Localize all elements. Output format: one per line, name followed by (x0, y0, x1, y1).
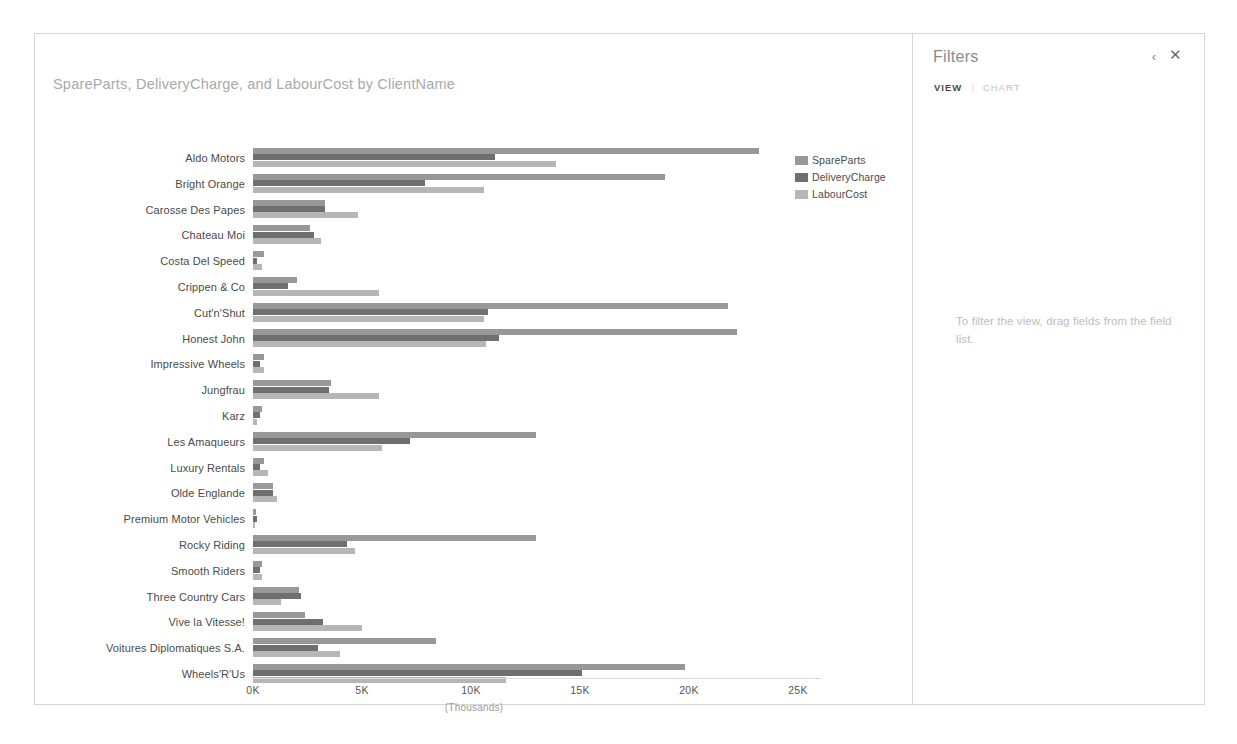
bar-spareparts[interactable] (253, 664, 685, 670)
category-label: Chateau Moi (75, 229, 245, 241)
bar-deliverycharge[interactable] (253, 619, 323, 625)
bar-deliverycharge[interactable] (253, 206, 325, 212)
bar-deliverycharge[interactable] (253, 670, 582, 676)
category-label: Les Amaqueurs (75, 436, 245, 448)
x-tick-label: 10K (451, 684, 491, 696)
chart-legend[interactable]: SparePartsDeliveryChargeLabourCost (795, 152, 913, 203)
bar-chart-plot-area[interactable]: Aldo MotorsBright OrangeCarosse Des Pape… (35, 34, 913, 704)
bar-deliverycharge[interactable] (253, 645, 318, 651)
bar-labourcost[interactable] (253, 496, 277, 502)
bar-spareparts[interactable] (253, 148, 759, 154)
bar-spareparts[interactable] (253, 483, 273, 489)
legend-swatch-icon (795, 156, 808, 165)
category-label: Aldo Motors (75, 152, 245, 164)
bar-spareparts[interactable] (253, 458, 264, 464)
legend-label: SpareParts (812, 154, 866, 166)
bar-labourcost[interactable] (253, 187, 484, 193)
bar-spareparts[interactable] (253, 303, 728, 309)
category-label: Bright Orange (75, 178, 245, 190)
bar-labourcost[interactable] (253, 548, 355, 554)
bar-labourcost[interactable] (253, 470, 268, 476)
bar-labourcost[interactable] (253, 445, 382, 451)
bar-deliverycharge[interactable] (253, 335, 499, 341)
legend-item[interactable]: DeliveryCharge (795, 169, 913, 185)
close-icon[interactable]: ✕ (1169, 47, 1182, 62)
category-label: Smooth Riders (75, 565, 245, 577)
chart-panel[interactable]: SpareParts, DeliveryCharge, and LabourCo… (35, 34, 913, 704)
bar-spareparts[interactable] (253, 612, 305, 618)
bar-deliverycharge[interactable] (253, 567, 260, 573)
bar-spareparts[interactable] (253, 225, 310, 231)
bar-spareparts[interactable] (253, 329, 737, 335)
bar-labourcost[interactable] (253, 238, 321, 244)
bar-spareparts[interactable] (253, 380, 331, 386)
bar-labourcost[interactable] (253, 599, 281, 605)
category-label: Rocky Riding (75, 539, 245, 551)
filters-tab-bar[interactable]: VIEW | CHART (934, 82, 1020, 93)
category-label: Karz (75, 410, 245, 422)
legend-label: LabourCost (812, 188, 867, 200)
bar-deliverycharge[interactable] (253, 361, 260, 367)
bar-deliverycharge[interactable] (253, 283, 288, 289)
bar-deliverycharge[interactable] (253, 154, 495, 160)
bar-spareparts[interactable] (253, 638, 436, 644)
bar-spareparts[interactable] (253, 432, 536, 438)
filters-title: Filters (933, 48, 979, 66)
bar-spareparts[interactable] (253, 587, 299, 593)
legend-item[interactable]: SpareParts (795, 152, 913, 168)
x-axis-caption: (Thousands) (35, 702, 913, 713)
bar-deliverycharge[interactable] (253, 593, 301, 599)
x-tick-label: 0K (233, 684, 273, 696)
bar-deliverycharge[interactable] (253, 180, 425, 186)
category-label: Wheels'R'Us (75, 668, 245, 680)
bar-spareparts[interactable] (253, 561, 262, 567)
bar-spareparts[interactable] (253, 174, 665, 180)
bar-labourcost[interactable] (253, 393, 379, 399)
bar-labourcost[interactable] (253, 290, 379, 296)
bar-labourcost[interactable] (253, 522, 255, 528)
bar-spareparts[interactable] (253, 406, 262, 412)
bar-deliverycharge[interactable] (253, 232, 314, 238)
bar-spareparts[interactable] (253, 354, 264, 360)
category-label: Impressive Wheels (75, 358, 245, 370)
x-tick-label: 20K (669, 684, 709, 696)
category-label: Cut'n'Shut (75, 307, 245, 319)
bar-labourcost[interactable] (253, 367, 264, 373)
chevron-left-icon[interactable]: ‹ (1152, 50, 1156, 63)
bar-labourcost[interactable] (253, 651, 340, 657)
bar-labourcost[interactable] (253, 341, 486, 347)
legend-swatch-icon (795, 173, 808, 182)
bar-spareparts[interactable] (253, 251, 264, 257)
legend-swatch-icon (795, 190, 808, 199)
bar-labourcost[interactable] (253, 161, 556, 167)
bar-deliverycharge[interactable] (253, 309, 488, 315)
category-label: Voitures Diplomatiques S.A. (75, 642, 245, 654)
bar-deliverycharge[interactable] (253, 464, 260, 470)
bar-spareparts[interactable] (253, 277, 297, 283)
bar-deliverycharge[interactable] (253, 541, 347, 547)
category-label: Crippen & Co (75, 281, 245, 293)
tab-chart[interactable]: CHART (983, 82, 1021, 93)
category-label: Carosse Des Papes (75, 204, 245, 216)
bar-deliverycharge[interactable] (253, 412, 260, 418)
bar-spareparts[interactable] (253, 535, 536, 541)
bar-labourcost[interactable] (253, 264, 262, 270)
x-tick-label: 5K (342, 684, 382, 696)
bar-labourcost[interactable] (253, 625, 362, 631)
tab-separator: | (971, 82, 974, 93)
bar-labourcost[interactable] (253, 316, 484, 322)
bar-deliverycharge[interactable] (253, 516, 257, 522)
bar-deliverycharge[interactable] (253, 438, 410, 444)
legend-item[interactable]: LabourCost (795, 186, 913, 202)
bar-spareparts[interactable] (253, 509, 256, 515)
x-tick-label: 15K (560, 684, 600, 696)
bar-deliverycharge[interactable] (253, 490, 273, 496)
tab-view[interactable]: VIEW (934, 82, 962, 93)
bar-spareparts[interactable] (253, 200, 325, 206)
filters-panel[interactable]: Filters ‹ ✕ VIEW | CHART To filter the v… (914, 34, 1204, 704)
bar-deliverycharge[interactable] (253, 387, 329, 393)
bar-labourcost[interactable] (253, 419, 257, 425)
bar-labourcost[interactable] (253, 574, 262, 580)
bar-labourcost[interactable] (253, 212, 358, 218)
bar-deliverycharge[interactable] (253, 258, 257, 264)
